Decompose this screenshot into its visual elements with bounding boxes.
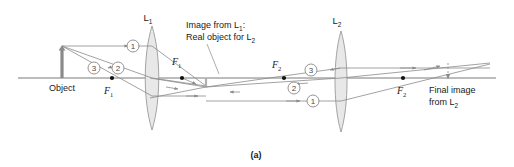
focal-point-f2-right-dot [401,76,405,80]
ray-marker-1-left: 1 [127,40,139,52]
intermediate-image-annotation-line2: Real object for L2 [186,32,256,44]
intermediate-image-annotation-line1: Image from L1: [186,20,245,32]
focal-point-f1-left-dot [110,76,114,80]
final-image-arrowhead [446,74,450,80]
ray-3-aux-arrow [166,87,178,89]
focal-point-f2-left-dot [282,76,286,80]
final-image-label-line2: from L2 [429,97,459,109]
focal-point-f2-left-label: F2 [271,59,281,72]
figure-caption: (a) [251,150,262,160]
ray-marker-3-right-label: 3 [309,66,314,75]
focal-point-f1-left-label: F1 [103,85,113,98]
ray-marker-3-right: 3 [305,64,317,76]
ray-marker-3-left-label: 3 [92,64,97,73]
lens-2-body [335,31,347,132]
focal-point-f1-right-dot [180,76,184,80]
ray-marker-1-left-label: 1 [131,42,136,51]
lens-2-label: L2 [333,15,342,28]
ray-1b-refracted [341,64,490,101]
focal-point-f2-right-label: F2 [396,85,406,98]
ray-marker-3-left: 3 [88,62,100,74]
final-image-marker [446,63,450,80]
ray-diagram-figure: 1 2 3 3 2 1 L1 L2 Object Imag [0,0,514,167]
focal-point-f1-right-label: F1 [171,56,181,69]
annotation-leader-line [207,44,219,74]
ray-3b-incoming-a [206,78,269,87]
ray-marker-1-right-label: 1 [311,97,316,106]
ray-marker-1-right: 1 [307,95,319,107]
ray-2-through-center [152,78,206,86]
ray-2b-through-center [341,63,490,78]
object-arrow [59,45,66,78]
ray-marker-2-left: 2 [112,62,124,74]
ray-marker-2-right-label: 2 [292,84,297,93]
ray-marker-2-right: 2 [288,82,300,94]
ray-2b-incoming [206,78,341,87]
ray-1-second-lens [206,64,490,101]
lens-2 [335,31,347,132]
object-label: Object [49,83,76,93]
final-image-label-line1: Final image [429,85,476,95]
ray-2-incoming [62,46,152,78]
lens-1-label: L1 [144,12,153,25]
optics-ray-diagram-svg: 1 2 3 3 2 1 L1 L2 Object Imag [0,0,514,167]
ray-marker-2-left-label: 2 [116,64,121,73]
